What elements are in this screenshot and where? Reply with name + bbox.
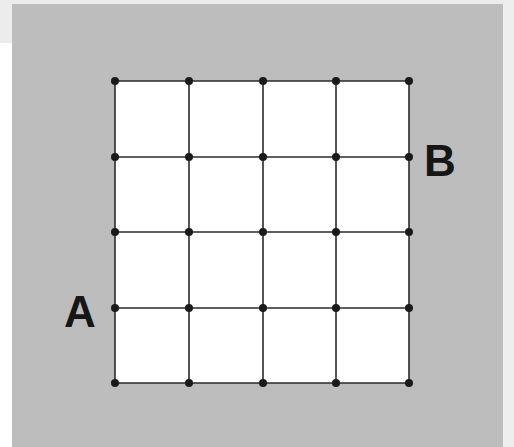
point-label-a: A — [64, 290, 96, 334]
grid-node — [259, 228, 267, 236]
grid-node — [405, 304, 413, 312]
grid-node — [185, 304, 193, 312]
grid-node — [259, 77, 267, 85]
grid-node — [111, 304, 119, 312]
grid-node — [111, 379, 119, 387]
grid-node — [259, 304, 267, 312]
grid-node — [185, 379, 193, 387]
grid-lattice — [0, 0, 514, 447]
grid-node — [185, 153, 193, 161]
grid-node — [259, 379, 267, 387]
grid-node — [332, 228, 340, 236]
grid-node — [259, 153, 267, 161]
grid-node — [111, 228, 119, 236]
grid-node — [332, 77, 340, 85]
grid-node — [405, 379, 413, 387]
grid-node — [185, 77, 193, 85]
grid-node — [332, 379, 340, 387]
grid-node — [111, 153, 119, 161]
grid-node — [405, 153, 413, 161]
grid-node — [111, 77, 119, 85]
grid-node — [332, 304, 340, 312]
grid-node — [185, 228, 193, 236]
point-label-b: B — [424, 139, 456, 183]
grid-node — [405, 228, 413, 236]
grid-node — [405, 77, 413, 85]
grid-node — [332, 153, 340, 161]
